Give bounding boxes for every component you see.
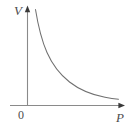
origin-label: 0 [18,108,24,122]
x-axis-label: P [115,110,124,125]
figure-container: V P 0 [0,0,131,129]
pressure-volume-chart: V P 0 [0,0,131,129]
